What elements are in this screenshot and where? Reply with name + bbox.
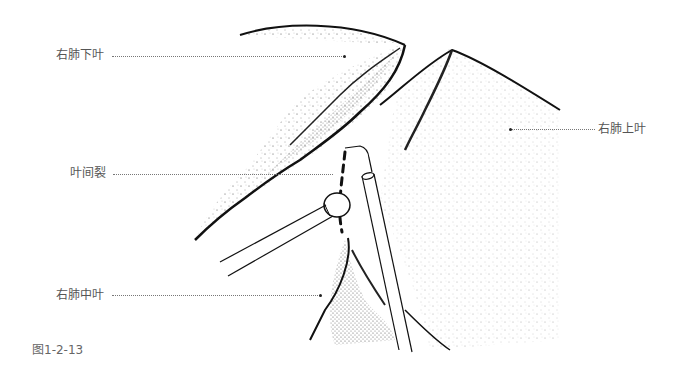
label-fissure: 叶间裂 <box>70 166 106 180</box>
leader-dot <box>343 55 346 58</box>
leader-dot <box>319 294 322 297</box>
figure-caption: 图1-2-13 <box>32 340 83 357</box>
ball-tip-instrument <box>220 193 350 276</box>
leader-right-middle-lobe <box>112 295 320 296</box>
leader-dot <box>509 128 512 131</box>
leader-fissure <box>113 174 333 175</box>
label-right-lower-lobe: 右肺下叶 <box>56 48 104 62</box>
leader-right-upper-lobe <box>511 129 595 130</box>
upper-lobe-shape <box>380 48 560 350</box>
label-right-upper-lobe: 右肺上叶 <box>598 122 646 136</box>
lower-lobe-shape <box>195 26 405 240</box>
label-right-middle-lobe: 右肺中叶 <box>56 288 104 302</box>
fissure-dashed-line <box>340 152 345 232</box>
leader-right-lower-lobe <box>112 56 344 57</box>
